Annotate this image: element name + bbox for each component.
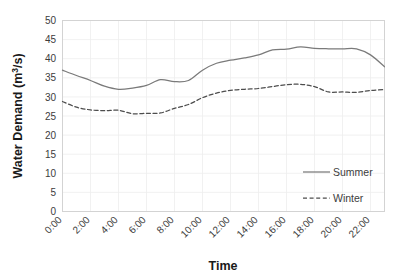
legend-label-winter: Winter <box>333 192 364 204</box>
y-tick-label: 15 <box>45 149 57 160</box>
x-axis-title: Time <box>209 259 238 273</box>
y-tick-label: 10 <box>45 168 57 179</box>
y-tick-label: 50 <box>45 15 57 26</box>
water-demand-line-chart: 05101520253035404550 0:002:004:006:008:0… <box>0 0 403 276</box>
y-axis-title-main: Water Demand (m <box>11 73 25 179</box>
y-tick-label: 45 <box>45 34 57 45</box>
y-tick-label: 30 <box>45 92 57 103</box>
y-tick-label: 20 <box>45 130 57 141</box>
y-tick-label: 25 <box>45 111 57 122</box>
chart-canvas: 05101520253035404550 0:002:004:006:008:0… <box>0 0 403 276</box>
y-tick-label: 40 <box>45 53 57 64</box>
y-tick-label: 5 <box>50 187 56 198</box>
y-axis-title-tail: /s) <box>11 53 25 68</box>
y-tick-label: 35 <box>45 72 57 83</box>
legend-label-summer: Summer <box>333 166 373 178</box>
